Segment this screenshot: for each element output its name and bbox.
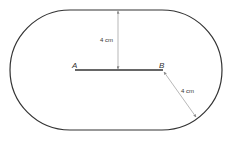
- diagonal-radius-arrow: [164, 72, 196, 117]
- point-a-label: A: [71, 61, 77, 70]
- stadium-diagram: A B 4 cm 4 cm: [0, 0, 226, 141]
- diagonal-measure-label: 4 cm: [181, 88, 194, 94]
- vertical-measure-label: 4 cm: [100, 37, 113, 43]
- point-b-label: B: [159, 61, 165, 70]
